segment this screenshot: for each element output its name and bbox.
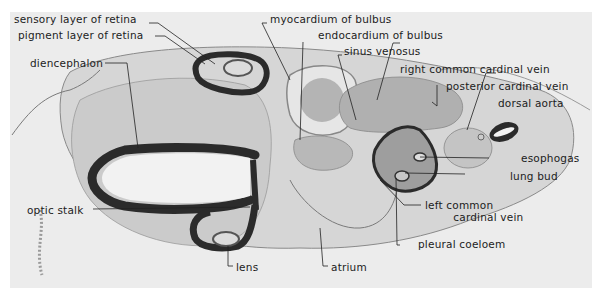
heart-mass [339,77,462,132]
label-lung-bud: lung bud [510,170,558,182]
upper-lens [224,60,252,76]
label-left-common-cardinal-vein: left common cardinal vein [425,199,523,223]
label-lens: lens [236,261,258,273]
label-myocardium-of-bulbus: myocardium of bulbus [270,13,392,25]
label-pigment-layer-of-retina: pigment layer of retina [18,29,143,41]
optic-stalk [253,160,256,210]
label-pleural-coelom: pleural coeloem [418,238,505,250]
lung-bud [395,171,409,181]
foregut-mass [374,127,437,191]
label-esophagus: esophogas [521,152,579,164]
bulbus-interior [300,78,344,122]
label-dorsal-aorta: dorsal aorta [498,97,564,109]
label-sensory-layer-of-retina: sensory layer of retina [14,13,137,25]
lower-lens [213,232,239,246]
dorsal-aorta-region [444,128,492,168]
label-posterior-cardinal-vein: posterior cardinal vein [446,80,569,92]
label-right-common-cardinal-vein: right common cardinal vein [400,63,550,75]
label-diencephalon: diencephalon [30,57,103,69]
label-atrium: atrium [331,261,367,273]
label-optic-stalk: optic stalk [27,204,83,216]
label-sinus-venosus: sinus venosus [344,45,420,57]
membrane-strand [39,210,42,275]
embryo-section-illustration [0,0,602,294]
small-vessel [478,134,484,140]
diencephalon-lumen [102,153,250,203]
label-endocardium-of-bulbus: endocardium of bulbus [318,29,443,41]
